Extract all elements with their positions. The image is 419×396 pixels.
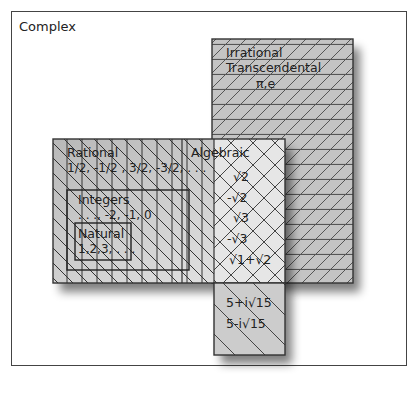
natural-examples: 1,2,3, . . .: [78, 243, 135, 255]
algebraic-example: √3: [233, 212, 249, 225]
algebraic-example: √1+√2: [229, 254, 271, 267]
algebraic-example: √2: [233, 171, 249, 184]
complex-example: 5-i√15: [226, 318, 266, 331]
integers-label: Integers: [78, 194, 129, 207]
algebraic-example: -√2: [227, 192, 247, 205]
rational-label: Rational: [67, 147, 118, 160]
algebraic-label: Algebraic: [191, 147, 250, 160]
natural-label: Natural: [78, 228, 124, 241]
rational-examples: 1/2, -1/2 , 3/2, -3/2, . . .: [67, 162, 206, 174]
transcendental-label: Transcendental: [226, 62, 321, 75]
algebraic-example: -√3: [227, 233, 247, 246]
complex-example: 5+i√15: [226, 297, 272, 310]
transcendental-examples: π,e: [256, 78, 275, 91]
irrational-label: Irrational: [226, 47, 282, 60]
set-regions-graphic: [0, 0, 419, 396]
integers-examples: . . ., -2, -1, 0: [78, 209, 152, 221]
